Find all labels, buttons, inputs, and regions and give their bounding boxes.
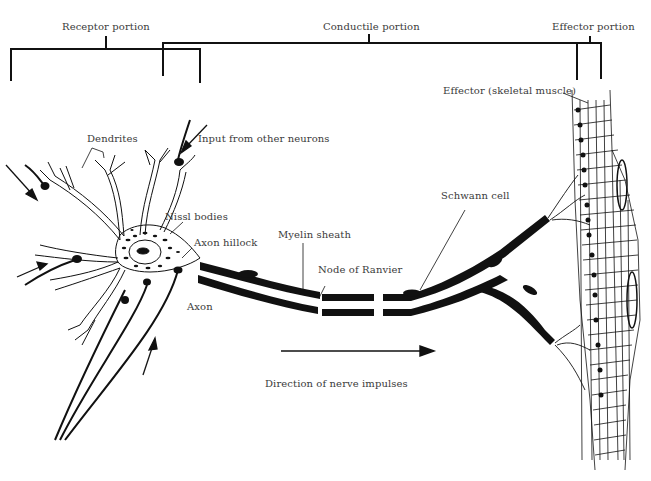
input-synapses bbox=[25, 120, 190, 440]
node-of-ranvier-label: Node of Ranvier bbox=[318, 264, 402, 275]
conductile-portion-label: Conductile portion bbox=[323, 21, 420, 32]
axon-label: Axon bbox=[187, 301, 213, 312]
skeletal-muscle bbox=[572, 90, 640, 470]
direction-label: Direction of nerve impulses bbox=[265, 378, 408, 389]
myelinated-axon bbox=[198, 215, 555, 345]
receptor-portion-label: Receptor portion bbox=[62, 21, 150, 32]
input-label: Input from other neurons bbox=[198, 133, 330, 144]
nissl-bodies-label: Nissl bodies bbox=[165, 211, 228, 222]
dendrites bbox=[35, 148, 195, 345]
dendrites-label: Dendrites bbox=[87, 133, 138, 144]
effector-portion-label: Effector portion bbox=[552, 21, 635, 32]
direction-arrow bbox=[281, 346, 434, 356]
neuron-diagram bbox=[0, 0, 651, 481]
effector-muscle-label: Effector (skeletal muscle) bbox=[443, 85, 576, 96]
myelin-sheath-label: Myelin sheath bbox=[278, 229, 351, 240]
terminal-branches bbox=[548, 175, 590, 390]
axon-hillock-label: Axon hillock bbox=[194, 237, 257, 248]
conductile-bracket bbox=[163, 34, 601, 80]
cell-body bbox=[116, 225, 200, 272]
schwann-cell-label: Schwann cell bbox=[441, 190, 510, 201]
